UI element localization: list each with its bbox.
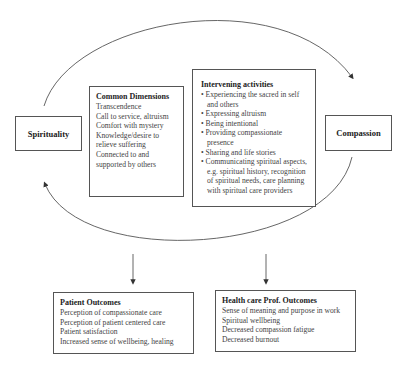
intervening-activities-title: Intervening activities [201,80,308,90]
intervening-activity-item: Being intentional [201,119,308,129]
intervening-activity-item: Sharing and life stories [201,148,308,158]
intervening-activities-list: Experiencing the sacred in self and othe… [201,90,308,196]
node-patient-outcomes: Patient Outcomes Perception of compassio… [53,292,194,354]
node-common-dimensions: Common Dimensions Transcendence Call to … [89,86,184,197]
hcp-outcome-item: Spiritual wellbeing [222,316,349,326]
patient-outcome-item: Patient satisfaction [60,327,187,337]
common-dimension-item: Call to service, altruism [96,112,177,122]
common-dimension-item: Comfort with mystery [96,121,177,131]
node-compassion: Compassion [325,115,392,151]
node-compassion-label: Compassion [336,128,380,138]
intervening-activity-item: Communicating spiritual aspects, e.g. sp… [201,157,308,195]
intervening-activity-item: Experiencing the sacred in self and othe… [201,90,308,109]
patient-outcome-item: Perception of compassionate care [60,308,187,318]
common-dimensions-title: Common Dimensions [96,92,177,102]
hcp-outcomes-title: Health care Prof. Outcomes [222,296,349,306]
hcp-outcome-item: Decreased compassion fatigue [222,325,349,335]
patient-outcome-item: Perception of patient centered care [60,318,187,328]
node-spirituality-label: Spirituality [28,129,70,139]
node-intervening-activities: Intervening activities Experiencing the … [192,69,316,207]
intervening-activity-item: Expressing altruism [201,109,308,119]
node-spirituality: Spirituality [15,116,82,151]
hcp-outcome-item: Sense of meaning and purpose in work [222,306,349,316]
common-dimension-item: Connected to and supported by others [96,150,177,169]
node-hcp-outcomes: Health care Prof. Outcomes Sense of mean… [215,290,356,352]
common-dimension-item: Knowledge/desire to relieve suffering [96,131,177,150]
patient-outcomes-title: Patient Outcomes [60,298,187,308]
intervening-activity-item: Providing compassionate presence [201,128,308,147]
patient-outcome-item: Increased sense of wellbeing, healing [60,337,187,347]
common-dimension-item: Transcendence [96,102,177,112]
hcp-outcome-item: Decreased burnout [222,335,349,345]
